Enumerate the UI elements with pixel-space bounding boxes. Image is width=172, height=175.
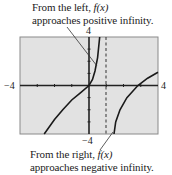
bottom-annotation: From the right, f(x) approaches negative… bbox=[30, 148, 154, 174]
bottom-annotation-fx: f(x) bbox=[97, 148, 112, 160]
x-max-label: 4 bbox=[161, 80, 166, 91]
y-min-label: −4 bbox=[82, 135, 93, 146]
bottom-annotation-line2: approaches negative infinity. bbox=[30, 161, 154, 174]
bottom-annotation-prefix: From the right, bbox=[30, 148, 97, 160]
y-max-label: 4 bbox=[86, 25, 91, 36]
bottom-annotation-line1: From the right, f(x) bbox=[30, 148, 154, 161]
x-min-label: −4 bbox=[4, 80, 15, 91]
